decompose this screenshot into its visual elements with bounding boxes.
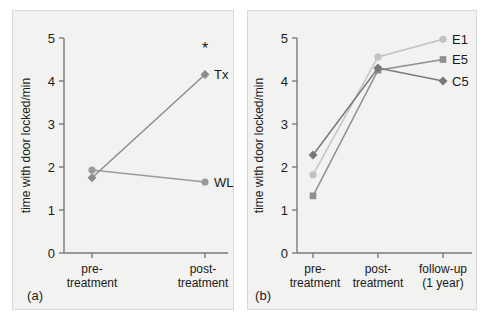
y-axis-title: time with door locked/min [252, 78, 266, 213]
y-tick-label: 0 [281, 246, 288, 261]
data-point-diamond [439, 77, 448, 86]
data-point-square [310, 192, 317, 199]
series-label-e1: E1 [452, 32, 468, 47]
y-tick-label: 5 [281, 31, 288, 46]
data-point-square [440, 56, 447, 63]
panel-b-plot: 012345pre-treatmentpost-treatmentfollow-… [0, 0, 489, 318]
series-label-c5: C5 [452, 74, 469, 89]
data-point-circle [309, 171, 316, 178]
x-tick-label: treatment [290, 276, 341, 290]
y-tick-label: 4 [281, 74, 288, 89]
x-tick-label: (1 year) [422, 276, 463, 290]
x-tick-label: pre- [304, 262, 325, 276]
series-label-e5: E5 [452, 52, 468, 67]
y-tick-label: 2 [281, 160, 288, 175]
panel-b-label: (b) [255, 288, 271, 303]
series-line-c5 [313, 68, 443, 155]
figure-container: 012345pre-treatmentpost-treatmenttime wi… [0, 0, 489, 318]
y-tick-label: 1 [281, 203, 288, 218]
data-point-circle [439, 36, 446, 43]
x-tick-label: post- [365, 262, 392, 276]
data-point-circle [374, 53, 381, 60]
panel-a-label: (a) [27, 288, 43, 303]
x-tick-label: follow-up [419, 262, 467, 276]
x-tick-label: treatment [353, 276, 404, 290]
y-tick-label: 3 [281, 117, 288, 132]
